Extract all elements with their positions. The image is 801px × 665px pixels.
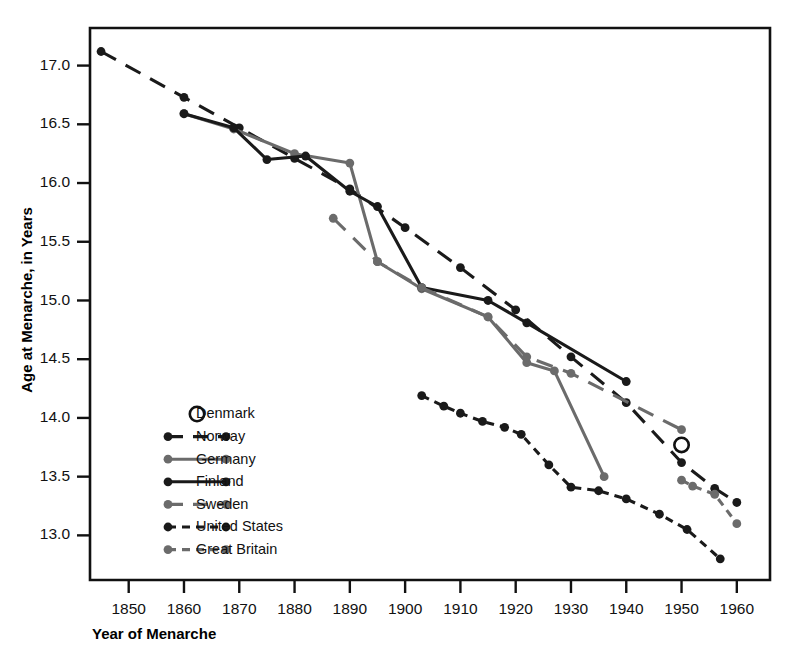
y-tick-label: 13.5 xyxy=(40,467,70,484)
x-axis-title: Year of Menarche xyxy=(92,625,216,642)
data-point xyxy=(567,352,576,361)
x-tick-label: 1890 xyxy=(333,600,368,617)
legend-label: Denmark xyxy=(196,405,256,421)
data-point xyxy=(567,483,576,492)
data-point xyxy=(417,391,426,400)
data-point xyxy=(517,430,526,439)
y-tick-label: 13.0 xyxy=(40,525,71,542)
data-point xyxy=(677,458,686,467)
data-point xyxy=(622,495,631,504)
data-point xyxy=(345,159,354,168)
legend-marker-icon xyxy=(164,523,173,532)
y-tick-label: 17.0 xyxy=(40,56,71,73)
data-point xyxy=(301,152,310,161)
data-point xyxy=(417,283,426,292)
data-point xyxy=(345,187,354,196)
data-point xyxy=(522,352,531,361)
legend-marker-icon xyxy=(164,432,173,441)
legend-item-denmark: Denmark xyxy=(190,405,256,421)
y-tick-label: 15.0 xyxy=(40,291,71,308)
data-point-open xyxy=(674,438,688,452)
data-point xyxy=(229,123,238,132)
legend-marker-icon xyxy=(164,500,173,509)
legend-label: Norway xyxy=(196,428,246,444)
y-tick-label: 14.0 xyxy=(40,408,71,425)
x-tick-label: 1850 xyxy=(111,600,146,617)
data-point xyxy=(677,476,686,485)
data-point xyxy=(677,425,686,434)
x-tick-label: 1860 xyxy=(167,600,202,617)
y-tick-label: 16.5 xyxy=(40,114,70,131)
chart-background xyxy=(0,0,801,665)
legend-label: Germany xyxy=(196,451,256,467)
data-point xyxy=(710,490,719,499)
x-tick-label: 1910 xyxy=(443,600,478,617)
y-axis-tick-labels: 17.016.516.015.515.014.514.013.513.0 xyxy=(40,56,71,543)
data-point xyxy=(180,109,189,118)
legend-label: Sweden xyxy=(196,496,248,512)
x-tick-label: 1930 xyxy=(554,600,589,617)
data-point xyxy=(716,554,725,563)
data-point xyxy=(683,525,692,534)
x-tick-label: 1960 xyxy=(720,600,755,617)
data-point xyxy=(484,313,493,322)
data-point xyxy=(456,409,465,418)
data-point xyxy=(263,155,272,164)
chart-figure: 17.016.516.015.515.014.514.013.513.0 185… xyxy=(0,0,801,665)
y-tick-label: 15.5 xyxy=(40,232,70,249)
x-tick-label: 1950 xyxy=(664,600,699,617)
series-denmark xyxy=(674,438,688,452)
menarche-age-line-chart: 17.016.516.015.515.014.514.013.513.0 185… xyxy=(0,0,801,665)
data-point xyxy=(550,367,559,376)
data-point xyxy=(688,482,697,491)
data-point xyxy=(622,377,631,386)
data-point xyxy=(522,318,531,327)
y-axis-title: Age at Menarche, in Years xyxy=(18,207,35,393)
legend-label: Great Britain xyxy=(196,541,277,557)
data-point xyxy=(594,486,603,495)
x-tick-label: 1900 xyxy=(388,600,423,617)
data-point xyxy=(484,296,493,305)
legend-marker-icon xyxy=(164,455,173,464)
legend-label: United States xyxy=(196,518,283,534)
legend-label: Finland xyxy=(196,473,244,489)
data-point xyxy=(500,423,509,432)
legend-marker-icon xyxy=(164,545,173,554)
data-point xyxy=(373,202,382,211)
data-point xyxy=(732,519,741,528)
data-point xyxy=(567,369,576,378)
data-point xyxy=(97,47,106,56)
data-point xyxy=(439,402,448,411)
x-tick-label: 1940 xyxy=(609,600,644,617)
data-point xyxy=(401,223,410,232)
data-point xyxy=(373,257,382,266)
data-point xyxy=(544,461,553,470)
data-point xyxy=(180,93,189,102)
x-tick-label: 1880 xyxy=(277,600,312,617)
data-point xyxy=(329,214,338,223)
data-point xyxy=(600,472,609,481)
y-tick-label: 14.5 xyxy=(40,349,70,366)
data-point xyxy=(478,417,487,426)
data-point xyxy=(732,498,741,507)
x-tick-label: 1920 xyxy=(498,600,533,617)
data-point xyxy=(456,263,465,272)
y-tick-label: 16.0 xyxy=(40,173,71,190)
legend-marker-icon xyxy=(164,477,173,486)
x-tick-label: 1870 xyxy=(222,600,257,617)
data-point xyxy=(655,510,664,519)
